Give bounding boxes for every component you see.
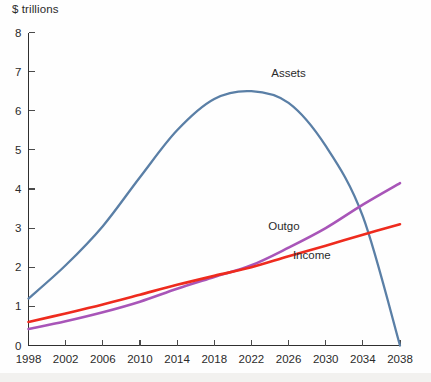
x-tick-label: 2002 xyxy=(53,353,79,365)
chart-container: $ trillions 012345678 199820022006201020… xyxy=(0,0,431,382)
x-tick-label: 2038 xyxy=(387,353,413,365)
line-chart-plot: 012345678 199820022006201020142018202220… xyxy=(0,0,431,382)
y-tick-label: 0 xyxy=(15,340,21,352)
y-axis-ticks: 012345678 xyxy=(15,27,34,352)
x-tick-label: 2030 xyxy=(313,353,339,365)
page-edge-strip xyxy=(0,373,431,382)
y-tick-label: 1 xyxy=(15,300,21,312)
x-tick-label: 2014 xyxy=(164,353,190,365)
y-tick-label: 8 xyxy=(15,27,21,39)
x-tick-label: 2018 xyxy=(201,353,227,365)
series-label-outgo: Outgo xyxy=(268,220,299,232)
x-tick-label: 2026 xyxy=(276,353,302,365)
x-tick-label: 2034 xyxy=(350,353,376,365)
series-label-assets: Assets xyxy=(271,67,306,79)
series-line-assets xyxy=(29,91,401,345)
y-tick-label: 4 xyxy=(15,183,22,195)
y-tick-label: 2 xyxy=(15,261,21,273)
x-tick-label: 2006 xyxy=(90,353,116,365)
data-series-group xyxy=(29,91,401,345)
x-tick-label: 2022 xyxy=(239,353,265,365)
series-label-income: Income xyxy=(293,249,331,261)
y-tick-label: 3 xyxy=(15,222,21,234)
x-tick-label: 2010 xyxy=(127,353,153,365)
y-tick-label: 7 xyxy=(15,66,21,78)
series-line-income xyxy=(29,224,401,322)
y-tick-label: 6 xyxy=(15,105,21,117)
y-tick-label: 5 xyxy=(15,144,21,156)
series-line-outgo xyxy=(29,183,401,329)
x-axis-ticks: 1998200220062010201420182022202620302034… xyxy=(16,340,413,365)
x-tick-label: 1998 xyxy=(16,353,42,365)
